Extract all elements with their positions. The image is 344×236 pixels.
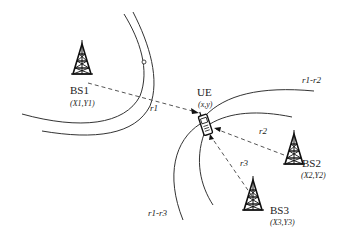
bs2-label: BS2 bbox=[302, 157, 321, 169]
range-line-r2 bbox=[216, 129, 284, 155]
ue-phone-icon bbox=[197, 110, 213, 136]
bs2-coords: (X2,Y2) bbox=[301, 171, 326, 180]
range-label-r3: r3 bbox=[240, 158, 249, 168]
hyperbola-label-r1-r3: r1-r3 bbox=[148, 208, 168, 218]
intersection-marker bbox=[142, 60, 146, 64]
bs3-label: BS3 bbox=[270, 204, 289, 216]
ue-label: UE bbox=[197, 86, 212, 98]
bs1-label: BS1 bbox=[70, 84, 89, 96]
bs1-tower-icon bbox=[71, 40, 93, 74]
ue-coords: (x,y) bbox=[198, 100, 213, 109]
tdoa-diagram: BS1 (X1,Y1) BS2 (X2,Y2) BS3 (X3,Y3) UE (… bbox=[0, 0, 344, 236]
hyperbola-r1-r3 bbox=[174, 124, 213, 220]
range-label-r1: r1 bbox=[150, 103, 158, 113]
bs3-tower-icon bbox=[242, 176, 264, 210]
bs1-coords: (X1,Y1) bbox=[70, 99, 95, 108]
range-label-r2: r2 bbox=[259, 126, 268, 136]
range-lines bbox=[88, 83, 284, 196]
hyperbola-label-r1-r2: r1-r2 bbox=[302, 75, 322, 85]
hyperbola-r1-r2-right bbox=[205, 90, 314, 124]
range-line-r1 bbox=[88, 83, 196, 112]
bs3-coords: (X3,Y3) bbox=[270, 218, 295, 227]
